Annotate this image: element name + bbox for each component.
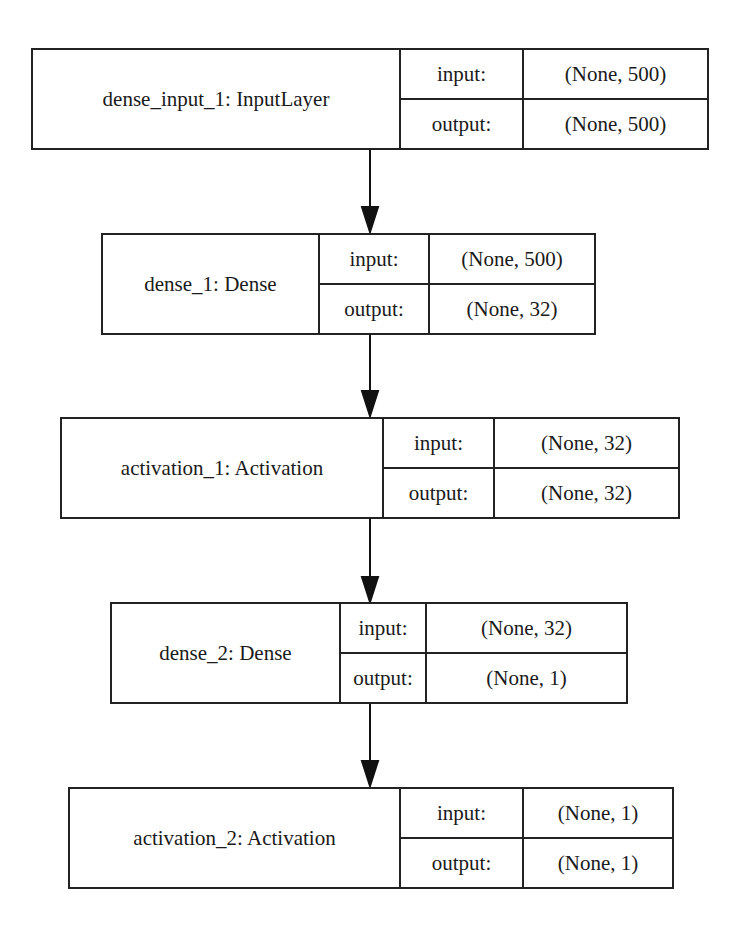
layer-name: dense_2: Dense [112,604,341,702]
input-row: input: (None, 500) [401,50,707,98]
input-label: input: [384,419,495,467]
layer-node-dense-1[interactable]: dense_1: Dense input: (None, 500) output… [101,233,596,335]
layer-node-dense-input-1[interactable]: dense_input_1: InputLayer input: (None, … [31,48,709,150]
layer-node-activation-2[interactable]: activation_2: Activation input: (None, 1… [68,787,674,889]
input-shape: (None, 32) [495,419,678,467]
layer-ports: input: (None, 32) output: (None, 32) [384,419,678,517]
layer-ports: input: (None, 32) output: (None, 1) [341,604,626,702]
layer-ports: input: (None, 500) output: (None, 500) [401,50,707,148]
edge-arrow [362,703,378,786]
input-label: input: [401,789,524,837]
output-row: output: (None, 500) [401,98,707,148]
layer-name: activation_2: Activation [70,789,401,887]
output-label: output: [341,654,427,702]
layer-name: dense_1: Dense [103,235,320,333]
layer-name: dense_input_1: InputLayer [33,50,401,148]
layer-node-dense-2[interactable]: dense_2: Dense input: (None, 32) output:… [110,602,628,704]
output-label: output: [401,839,524,887]
input-shape: (None, 500) [430,235,594,283]
output-shape: (None, 32) [495,469,678,517]
layer-ports: input: (None, 500) output: (None, 32) [320,235,594,333]
edge-arrow [362,333,378,416]
input-label: input: [341,604,427,652]
output-row: output: (None, 32) [320,283,594,333]
output-label: output: [401,100,524,148]
input-label: input: [320,235,430,283]
output-shape: (None, 1) [524,839,672,887]
output-label: output: [384,469,495,517]
output-row: output: (None, 32) [384,467,678,517]
edge-arrow [362,149,378,232]
input-shape: (None, 1) [524,789,672,837]
input-row: input: (None, 32) [341,604,626,652]
output-row: output: (None, 1) [401,837,672,887]
input-row: input: (None, 32) [384,419,678,467]
output-row: output: (None, 1) [341,652,626,702]
input-shape: (None, 500) [524,50,707,98]
output-shape: (None, 32) [430,285,594,333]
output-label: output: [320,285,430,333]
input-row: input: (None, 500) [320,235,594,283]
input-label: input: [401,50,524,98]
edge-arrow [362,519,378,602]
layer-name: activation_1: Activation [62,419,384,517]
input-row: input: (None, 1) [401,789,672,837]
layer-node-activation-1[interactable]: activation_1: Activation input: (None, 3… [60,417,680,519]
output-shape: (None, 1) [427,654,626,702]
input-shape: (None, 32) [427,604,626,652]
output-shape: (None, 500) [524,100,707,148]
layer-ports: input: (None, 1) output: (None, 1) [401,789,672,887]
